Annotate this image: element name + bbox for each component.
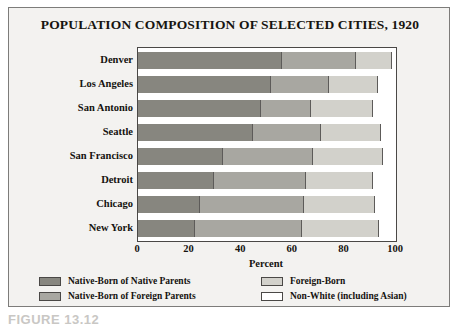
chart-plot-area <box>137 47 397 242</box>
x-tick-label: 80 <box>338 243 349 254</box>
bar-segment <box>378 76 396 93</box>
bar-segment <box>302 220 379 237</box>
bar-segment <box>271 76 329 93</box>
y-axis-label-los-angeles: Los Angeles <box>21 78 133 89</box>
legend-swatch-icon <box>39 292 61 301</box>
bar-segment <box>138 76 271 93</box>
bar-segment <box>138 52 282 69</box>
bar-segment <box>138 148 223 165</box>
bar-segment <box>329 76 378 93</box>
x-tick-label: 0 <box>134 243 139 254</box>
y-axis-label-san-francisco: San Francisco <box>21 150 133 161</box>
legend-label: Native-Born of Native Parents <box>68 276 191 286</box>
bar-segment <box>200 196 304 213</box>
bar-segment <box>373 100 396 117</box>
bar-segment <box>373 172 396 189</box>
bar-segment <box>356 52 392 69</box>
bar-segment <box>138 196 200 213</box>
bar-track <box>138 220 396 237</box>
bar-row <box>138 100 396 117</box>
bar-segment <box>138 220 195 237</box>
y-axis-label-denver: Denver <box>21 54 133 65</box>
bar-track <box>138 148 396 165</box>
legend-item[interactable]: Native-Born of Native Parents <box>39 276 191 286</box>
bar-segment <box>253 124 321 141</box>
bar-segment <box>304 196 375 213</box>
bar-segment <box>214 172 306 189</box>
bar-track <box>138 196 396 213</box>
legend-item[interactable]: Non-White (including Asian) <box>261 291 407 301</box>
x-tick-label: 100 <box>387 243 403 254</box>
y-axis-label-chicago: Chicago <box>21 198 133 209</box>
bar-row <box>138 172 396 189</box>
bar-row <box>138 148 396 165</box>
bar-row <box>138 124 396 141</box>
x-axis-title: Percent <box>137 258 395 269</box>
x-tick-label: 60 <box>287 243 298 254</box>
bar-row <box>138 220 396 237</box>
bar-segment <box>138 172 214 189</box>
chart-legend: Native-Born of Native ParentsNative-Born… <box>39 276 439 306</box>
x-tick-label: 40 <box>235 243 246 254</box>
y-axis-label-new-york: New York <box>21 222 133 233</box>
legend-swatch-icon <box>261 292 283 301</box>
x-tick-label: 20 <box>183 243 194 254</box>
y-axis-label-seattle: Seattle <box>21 126 133 137</box>
bar-segment <box>306 172 373 189</box>
figure-panel: POPULATION COMPOSITION OF SELECTED CITIE… <box>8 7 450 307</box>
legend-label: Native-Born of Foreign Parents <box>68 291 196 301</box>
bar-track <box>138 124 396 141</box>
bar-segment <box>195 220 302 237</box>
bar-segment <box>392 52 396 69</box>
bar-segment <box>311 100 373 117</box>
bar-row <box>138 76 396 93</box>
y-axis-category-labels: DenverLos AngelesSan AntonioSeattleSan F… <box>17 47 133 240</box>
bar-segment <box>282 52 356 69</box>
y-axis-label-san-antonio: San Antonio <box>21 102 133 113</box>
bar-segment <box>223 148 313 165</box>
y-axis-label-detroit: Detroit <box>21 174 133 185</box>
chart-title: POPULATION COMPOSITION OF SELECTED CITIE… <box>9 17 451 33</box>
bar-row <box>138 196 396 213</box>
legend-label: Foreign-Born <box>290 276 345 286</box>
bar-row <box>138 52 396 69</box>
legend-label: Non-White (including Asian) <box>290 291 407 301</box>
bar-segment <box>379 220 396 237</box>
bar-segment <box>138 124 253 141</box>
bar-segment <box>261 100 311 117</box>
legend-item[interactable]: Foreign-Born <box>261 276 345 286</box>
bar-track <box>138 172 396 189</box>
bar-segment <box>375 196 396 213</box>
legend-swatch-icon <box>261 277 283 286</box>
bar-track <box>138 52 396 69</box>
x-axis-tick-labels: 020406080100 <box>137 243 395 257</box>
bar-track <box>138 76 396 93</box>
bar-segment <box>138 100 261 117</box>
bar-segment <box>381 124 396 141</box>
figure-caption: FIGURE 13.12 <box>8 312 99 327</box>
bar-track <box>138 100 396 117</box>
bar-segment <box>321 124 380 141</box>
legend-item[interactable]: Native-Born of Foreign Parents <box>39 291 196 301</box>
legend-swatch-icon <box>39 277 61 286</box>
bar-segment <box>313 148 383 165</box>
bar-segment <box>383 148 396 165</box>
